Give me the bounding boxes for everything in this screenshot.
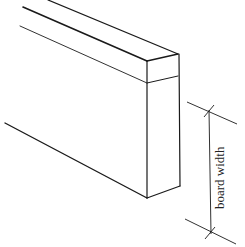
bottom-front-edge	[5, 123, 147, 198]
face-upper-line	[20, 26, 147, 83]
board-diagram: board width	[0, 0, 245, 247]
board-outline	[5, 0, 180, 198]
end-right-edge	[179, 54, 180, 186]
dimension-line	[209, 110, 211, 234]
end-top-edge	[147, 54, 178, 61]
end-band-line	[147, 76, 178, 83]
board-width-label: board width	[212, 146, 227, 209]
end-bottom-edge	[147, 186, 180, 198]
extension-line-top	[187, 102, 237, 124]
dimension-marker	[185, 102, 237, 244]
